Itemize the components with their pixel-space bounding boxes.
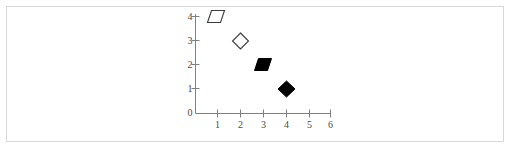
x-axis-tick-label-3: 3 (257, 120, 271, 130)
x-axis-tick-label-6: 6 (324, 120, 338, 130)
data-point-marker-open-parallelogram (208, 11, 225, 23)
x-axis-tick-label-4: 4 (280, 120, 294, 130)
y-axis-tick-label-2: 2 (183, 60, 197, 70)
x-axis-tick-label-2: 2 (234, 120, 248, 130)
scatter-plot: 0 4 3 2 1 1 2 3 4 5 6 (0, 0, 512, 150)
data-point-marker-filled-diamond (278, 81, 295, 97)
data-point-marker-filled-parallelogram (255, 59, 272, 71)
axis-origin-label: 0 (183, 108, 197, 118)
x-axis-tick-label-5: 5 (303, 120, 317, 130)
y-axis-tick-label-1: 1 (183, 84, 197, 94)
data-point-marker-open-diamond (233, 33, 249, 49)
y-axis-tick-label-3: 3 (183, 36, 197, 46)
y-axis-tick-label-4: 4 (183, 12, 197, 22)
x-axis-tick-label-1: 1 (211, 120, 225, 130)
